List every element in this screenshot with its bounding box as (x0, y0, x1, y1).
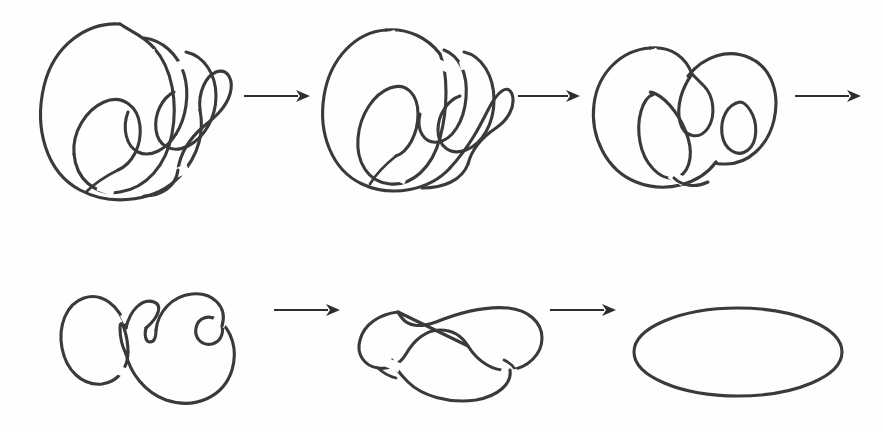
knot-panel-6 (628, 302, 848, 402)
arrow-glyph (550, 302, 616, 318)
arrow-glyph (274, 302, 340, 318)
knot-diagram-1 (28, 14, 240, 206)
arrow-glyph (518, 88, 580, 104)
knot-diagram-2 (312, 22, 520, 202)
knot-panel-3 (578, 36, 786, 198)
arrow-4 (274, 302, 340, 322)
knot-panel-1 (28, 14, 240, 206)
knot-diagram-4 (56, 284, 270, 408)
arrow-1 (244, 88, 310, 108)
knot-panel-4 (56, 284, 270, 408)
arrow-2 (518, 88, 580, 108)
arrow-5 (550, 302, 616, 322)
arrow-glyph (244, 88, 310, 104)
knot-diagram-6-unknot (628, 302, 848, 402)
knot-diagram-3 (578, 36, 786, 198)
arrow-glyph (795, 88, 861, 104)
knot-panel-5 (352, 296, 550, 406)
knot-diagram-5 (352, 296, 550, 406)
knot-unknotting-figure: Unknotting sequence of a knot diagram A … (0, 0, 883, 432)
arrow-3 (795, 88, 861, 108)
knot-panel-2 (312, 22, 520, 202)
